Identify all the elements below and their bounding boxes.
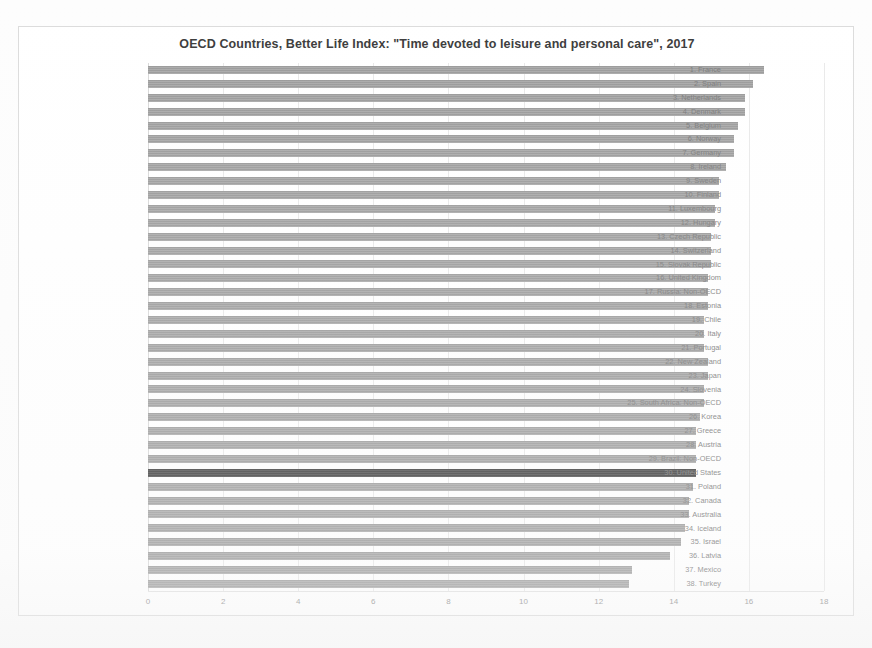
bar-row [148,549,824,563]
bar-row [148,327,824,341]
bar-row [148,355,824,369]
chart-page: OECD Countries, Better Life Index: "Time… [0,0,872,648]
bar-row [148,271,824,285]
bar [148,455,696,463]
bar [148,260,711,268]
bar-row [148,174,824,188]
bar-row [148,369,824,383]
bar [148,441,696,449]
bar [148,205,715,213]
bar [148,524,685,532]
bar [148,413,700,421]
bar [148,163,726,171]
x-axis-line [148,591,824,592]
bar [148,302,708,310]
x-tick-label-4: 4 [296,597,300,606]
bar [148,483,693,491]
bar [148,510,689,518]
bar [148,372,708,380]
bar-row [148,244,824,258]
bar-row [148,563,824,577]
bar-row [148,132,824,146]
bar [148,80,753,88]
x-tick-label-18: 18 [820,597,829,606]
bar [148,247,711,255]
bar-series [148,63,824,591]
bar-row [148,438,824,452]
bar [148,316,704,324]
bar-row [148,202,824,216]
bar [148,135,734,143]
x-tick-label-12: 12 [594,597,603,606]
bar-row [148,77,824,91]
bar-row [148,105,824,119]
bar [148,177,719,185]
chart-title: OECD Countries, Better Life Index: "Time… [19,37,855,51]
x-tick-label-16: 16 [744,597,753,606]
bar-row [148,146,824,160]
x-tick-label-2: 2 [221,597,225,606]
bar [148,330,704,338]
bar [148,538,681,546]
bar [148,274,708,282]
gridline-18 [824,63,825,591]
bar-row [148,494,824,508]
bar-row [148,424,824,438]
bar-row [148,119,824,133]
bar-row [148,313,824,327]
bar-row [148,466,824,480]
bar-row [148,577,824,591]
bar [148,497,689,505]
chart-frame: OECD Countries, Better Life Index: "Time… [18,26,854,616]
bar [148,358,708,366]
bar-row [148,341,824,355]
bar [148,344,704,352]
x-tick-label-10: 10 [519,597,528,606]
bar-row [148,216,824,230]
bar [148,191,719,199]
bar [148,399,704,407]
bar-row [148,480,824,494]
bar [148,108,745,116]
bar-row [148,382,824,396]
bar-row [148,285,824,299]
plot-area [148,63,824,591]
bar-row [148,230,824,244]
bar-row [148,160,824,174]
bar [148,552,670,560]
bar-row [148,396,824,410]
bar-row [148,535,824,549]
x-axis: 024681012141618 [148,591,824,617]
bar [148,385,704,393]
bar [148,122,738,130]
x-tick-label-14: 14 [669,597,678,606]
bar [148,580,629,588]
bar [148,233,711,241]
bar-row [148,63,824,77]
bar-row [148,188,824,202]
bar-row [148,91,824,105]
bar [148,94,745,102]
bar-row [148,508,824,522]
bar [148,566,632,574]
bar-row [148,299,824,313]
bar [148,427,696,435]
bar [148,469,696,477]
bar-row [148,410,824,424]
bar-row [148,521,824,535]
bar [148,219,715,227]
bar [148,288,708,296]
x-tick-label-8: 8 [446,597,450,606]
bar-row [148,257,824,271]
x-tick-label-6: 6 [371,597,375,606]
bar [148,66,764,74]
bar [148,149,734,157]
x-tick-label-0: 0 [146,597,150,606]
bar-row [148,452,824,466]
